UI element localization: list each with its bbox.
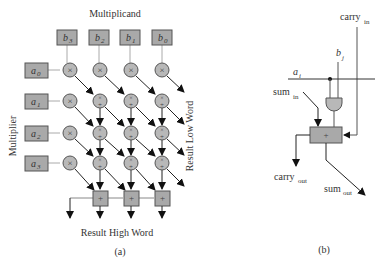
svg-text:carry: carry <box>340 11 361 22</box>
cell-row-1: × ×+ ×+ ×+ <box>63 94 169 109</box>
svg-text:a: a <box>293 66 298 77</box>
carry-in-label: carry in <box>340 11 370 26</box>
svg-text:sum: sum <box>324 183 341 194</box>
svg-text:a: a <box>31 65 36 76</box>
svg-text:+: + <box>129 133 133 141</box>
svg-text:×: × <box>159 65 164 75</box>
svg-text:+: + <box>129 101 133 109</box>
svg-text:a: a <box>31 128 36 139</box>
svg-text:b: b <box>158 32 163 43</box>
svg-text:0: 0 <box>164 37 168 45</box>
multiplier-bit-a1: a 1 <box>25 94 48 109</box>
svg-text:b: b <box>126 32 131 43</box>
svg-text:3: 3 <box>36 163 41 171</box>
svg-text:+: + <box>98 163 102 171</box>
svg-text:×: × <box>67 96 72 106</box>
svg-text:a: a <box>31 158 36 169</box>
adder-row: + + + <box>70 191 170 218</box>
svg-text:×: × <box>67 158 72 168</box>
svg-text:+: + <box>323 130 328 140</box>
multiplier-bit-a3: a 3 <box>25 156 48 171</box>
svg-text:+: + <box>98 101 102 109</box>
svg-text:out: out <box>298 177 307 185</box>
svg-text:+: + <box>98 193 103 203</box>
svg-text:b: b <box>336 47 341 58</box>
svg-text:1: 1 <box>37 101 41 109</box>
svg-text:+: + <box>129 163 133 171</box>
cell-row-3: × ×+ ×+ ×+ <box>63 156 169 171</box>
svg-text:3: 3 <box>68 37 73 45</box>
svg-text:b: b <box>95 32 100 43</box>
svg-text:2: 2 <box>101 37 105 45</box>
sum-in-label: sum in <box>273 86 299 101</box>
cell-row-2: × ×+ ×+ ×+ <box>63 126 169 141</box>
svg-text:+: + <box>98 133 102 141</box>
svg-text:+: + <box>160 163 164 171</box>
multiplier-diagram: Multiplicand Multiplier Result Low Word … <box>0 0 380 264</box>
svg-text:1: 1 <box>132 37 136 45</box>
svg-text:×: × <box>67 128 72 138</box>
carry-out-label: carry out <box>274 171 307 185</box>
caption-b: (b) <box>318 244 330 256</box>
svg-text:b: b <box>63 32 68 43</box>
multiplicand-title: Multiplicand <box>89 8 141 19</box>
svg-text:in: in <box>293 93 299 101</box>
a-i-label: a i <box>293 66 301 80</box>
multiplier-label: Multiplier <box>7 115 18 156</box>
svg-text:in: in <box>364 18 370 26</box>
result-high-word-label: Result High Word <box>81 227 153 238</box>
svg-text:+: + <box>160 101 164 109</box>
multiplier-bit-a0: a 0 <box>25 63 48 78</box>
svg-text:+: + <box>160 133 164 141</box>
and-gate-icon <box>326 98 342 111</box>
multiplicand-bit-b2: b 2 <box>89 30 109 45</box>
svg-text:+: + <box>129 193 134 203</box>
b-j-label: b j <box>336 47 344 62</box>
cell-row-0: × × × × <box>63 63 169 77</box>
svg-text:+: + <box>160 193 165 203</box>
multiplicand-bit-b0: b 0 <box>152 30 172 45</box>
svg-text:out: out <box>343 189 352 197</box>
svg-text:a: a <box>31 96 36 107</box>
carry-in-arrowhead-icon <box>343 132 350 139</box>
svg-text:sum: sum <box>273 86 290 97</box>
multiplicand-bit-b3: b 3 <box>57 30 77 45</box>
svg-text:j: j <box>341 54 344 62</box>
svg-text:×: × <box>67 65 72 75</box>
figure-b: carry in b j a i sum in + <box>273 11 375 256</box>
svg-text:carry: carry <box>274 171 295 182</box>
multiplier-bit-a2: a 2 <box>25 126 48 141</box>
svg-text:×: × <box>128 65 133 75</box>
svg-text:0: 0 <box>37 70 41 78</box>
svg-text:2: 2 <box>37 133 41 141</box>
figure-a: Multiplicand Multiplier Result Low Word … <box>7 8 195 258</box>
svg-text:×: × <box>97 65 102 75</box>
multiplicand-bit-b1: b 1 <box>120 30 140 45</box>
vertical-arrows <box>100 108 162 189</box>
result-low-word-label: Result Low Word <box>184 101 195 172</box>
sum-out-label: sum out <box>324 183 352 197</box>
caption-a: (a) <box>114 246 125 258</box>
